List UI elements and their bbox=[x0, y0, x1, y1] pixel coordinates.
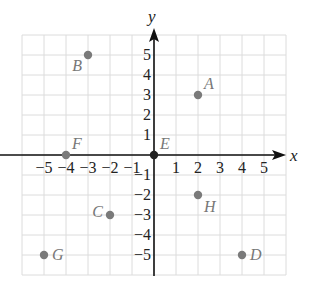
y-tick-label: −1 bbox=[134, 166, 151, 183]
point-dot-icon bbox=[84, 51, 92, 59]
y-tick-label: 5 bbox=[143, 46, 151, 63]
x-tick-label: 3 bbox=[216, 159, 224, 176]
y-tick-label: 3 bbox=[143, 86, 151, 103]
point-dot-icon bbox=[150, 151, 158, 159]
point-label: B bbox=[72, 57, 82, 74]
point-label: D bbox=[249, 246, 262, 263]
point-d: D bbox=[238, 246, 262, 263]
point-label: F bbox=[71, 135, 82, 152]
x-tick-label: 4 bbox=[238, 159, 246, 176]
point-dot-icon bbox=[40, 251, 48, 259]
point-dot-icon bbox=[194, 91, 202, 99]
point-label: G bbox=[52, 246, 64, 263]
y-tick-label: −4 bbox=[134, 226, 151, 243]
y-tick-label: 4 bbox=[143, 66, 151, 83]
point-h: H bbox=[194, 191, 217, 215]
y-tick-label: −3 bbox=[134, 206, 151, 223]
y-tick-label: −2 bbox=[134, 186, 151, 203]
point-label: C bbox=[92, 203, 103, 220]
x-tick-label: 1 bbox=[172, 159, 180, 176]
point-label: E bbox=[159, 135, 170, 152]
point-label: H bbox=[203, 198, 217, 215]
point-label: A bbox=[203, 75, 214, 92]
point-dot-icon bbox=[62, 151, 70, 159]
y-axis-label: y bbox=[146, 7, 156, 26]
y-tick-label: 2 bbox=[143, 106, 151, 123]
x-axis-label: x bbox=[289, 146, 298, 165]
point-c: C bbox=[92, 203, 114, 220]
point-dot-icon bbox=[238, 251, 246, 259]
point-b: B bbox=[72, 51, 92, 74]
x-tick-label: 5 bbox=[260, 159, 268, 176]
point-g: G bbox=[40, 246, 64, 263]
coordinate-plane: x y −5−4−3−2−11234554321−1−2−3−4−5 ABCDE… bbox=[0, 0, 313, 290]
point-a: A bbox=[194, 75, 214, 99]
x-tick-label: 2 bbox=[194, 159, 202, 176]
x-tick-label: −3 bbox=[79, 159, 96, 176]
point-dot-icon bbox=[106, 211, 114, 219]
y-tick-label: 1 bbox=[143, 126, 151, 143]
x-tick-label: −5 bbox=[35, 159, 52, 176]
y-tick-label: −5 bbox=[134, 246, 151, 263]
x-tick-label: −4 bbox=[57, 159, 74, 176]
x-tick-label: −2 bbox=[101, 159, 118, 176]
point-dot-icon bbox=[194, 191, 202, 199]
